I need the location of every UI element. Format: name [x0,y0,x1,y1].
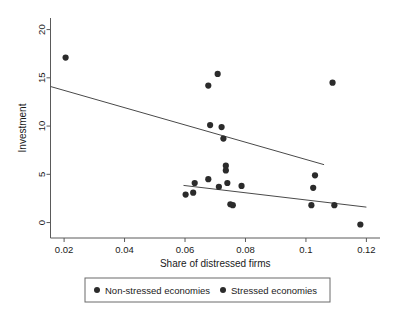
x-tick-label: 0.06 [176,244,195,255]
data-point [310,185,316,191]
chart-legend: Non-stressed economiesStressed economies [85,278,330,302]
regression-lines-layer [51,87,367,208]
data-point [238,183,244,189]
data-point [205,82,211,88]
x-tick-label: 0.02 [55,244,74,255]
data-point [357,221,363,227]
data-point [207,122,213,128]
legend-marker-1[interactable] [220,287,226,293]
y-tick-label: 0 [36,220,47,225]
axis-labels-layer: 051015200.020.040.060.080.10.12Share of … [17,24,376,269]
data-point [223,167,229,173]
data-point [331,202,337,208]
data-point [329,80,335,86]
data-point [218,124,224,130]
axes-layer [47,18,381,242]
legend-label-1[interactable]: Stressed economies [231,285,317,296]
legend-label-0[interactable]: Non-stressed economies [105,285,210,296]
data-point [63,54,69,60]
y-tick-label: 5 [36,172,47,177]
data-point [230,202,236,208]
data-point [224,180,230,186]
plot-canvas: 051015200.020.040.060.080.10.12Share of … [0,0,412,317]
x-tick-label: 0.08 [236,244,255,255]
data-point [220,136,226,142]
x-tick-label: 0.1 [299,244,312,255]
data-point [216,184,222,190]
regression-line-series-1 [184,185,367,207]
y-axis-title: Investment [17,103,28,152]
x-axis-title: Share of distressed firms [160,258,271,269]
regression-line-series-0 [51,87,325,165]
scatter-chart: 051015200.020.040.060.080.10.12Share of … [0,0,412,317]
data-point [190,190,196,196]
y-tick-label: 20 [36,24,47,35]
x-tick-label: 0.12 [357,244,376,255]
data-point [312,172,318,178]
data-point [205,176,211,182]
y-tick-label: 15 [36,73,47,84]
legend-marker-0[interactable] [94,287,100,293]
data-point [308,202,314,208]
data-point [183,191,189,197]
y-tick-label: 10 [36,121,47,132]
x-tick-label: 0.04 [115,244,134,255]
data-point [215,71,221,77]
data-point [192,180,198,186]
